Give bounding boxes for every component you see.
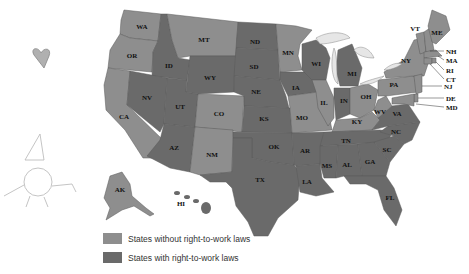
- label-NV: NV: [142, 94, 152, 102]
- label-IL: IL: [320, 99, 328, 107]
- label-AZ: AZ: [169, 144, 179, 152]
- label-SD: SD: [250, 63, 259, 71]
- label-OK: OK: [269, 143, 280, 151]
- label-OH: OH: [361, 93, 372, 101]
- label-KS: KS: [259, 115, 268, 123]
- label-AL: AL: [342, 161, 352, 169]
- state-CT: [424, 58, 432, 64]
- label-AK: AK: [115, 186, 126, 194]
- label-WA: WA: [136, 23, 147, 31]
- heart-sketch-icon: [33, 49, 50, 68]
- label-MA: MA: [446, 57, 458, 65]
- label-ID: ID: [165, 62, 173, 70]
- label-DE: DE: [446, 95, 456, 103]
- state-ME: [428, 10, 450, 44]
- label-NJ: NJ: [444, 83, 453, 91]
- label-KY: KY: [352, 118, 363, 126]
- label-MT: MT: [198, 36, 210, 44]
- label-NM: NM: [206, 151, 218, 159]
- label-WI: WI: [311, 60, 321, 68]
- state-RI: [432, 58, 436, 63]
- legend-item-without: States without right-to-work laws: [103, 233, 250, 244]
- label-NY: NY: [401, 57, 411, 65]
- label-TN: TN: [341, 137, 351, 145]
- label-OR: OR: [127, 52, 138, 60]
- label-MD: MD: [446, 104, 458, 112]
- state-MD: [392, 94, 414, 106]
- label-WY: WY: [204, 74, 216, 82]
- label-GA: GA: [365, 158, 376, 166]
- cartoon-sketch-icon: [4, 134, 76, 207]
- state-DE: [414, 94, 418, 102]
- label-MO: MO: [296, 114, 309, 122]
- label-VA: VA: [392, 110, 401, 118]
- label-MI: MI: [347, 70, 357, 78]
- legend-label-with: States with right-to-work laws: [128, 253, 239, 263]
- label-HI: HI: [177, 200, 185, 208]
- label-WV: WV: [374, 108, 386, 116]
- state-AK: [104, 172, 154, 220]
- label-ME: ME: [431, 29, 443, 37]
- label-VT: VT: [410, 25, 420, 33]
- label-LA: LA: [302, 178, 312, 186]
- label-UT: UT: [175, 103, 185, 111]
- right-to-work-map: WA OR CA ID NV UT AZ MT WY CO NM ND SD N…: [0, 0, 469, 274]
- label-IA: IA: [292, 84, 300, 92]
- label-SC: SC: [383, 146, 392, 154]
- label-MN: MN: [282, 49, 294, 57]
- label-RI: RI: [446, 67, 454, 75]
- label-NC: NC: [391, 128, 401, 136]
- label-MS: MS: [322, 162, 333, 170]
- legend-item-with: States with right-to-work laws: [103, 252, 239, 263]
- swatch-with-rtw: [103, 252, 122, 263]
- label-ND: ND: [250, 38, 260, 46]
- label-CA: CA: [119, 113, 129, 121]
- label-IN: IN: [340, 97, 348, 105]
- label-NH: NH: [446, 48, 457, 56]
- label-FL: FL: [386, 194, 395, 202]
- label-PA: PA: [390, 81, 399, 89]
- label-TX: TX: [255, 176, 265, 184]
- label-NE: NE: [251, 88, 261, 96]
- swatch-without-rtw: [103, 233, 122, 244]
- label-CO: CO: [214, 110, 225, 118]
- label-AR: AR: [300, 147, 311, 155]
- legend-label-without: States without right-to-work laws: [128, 234, 250, 244]
